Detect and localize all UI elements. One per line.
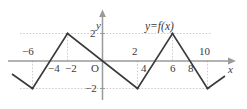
x-axis <box>8 58 236 65</box>
origin-label: O <box>91 63 99 74</box>
x-tick-label-neg6: −6 <box>22 46 34 57</box>
y-tick-label-2: 2 <box>90 28 96 39</box>
x-tick-label-10: 10 <box>199 46 210 57</box>
x-tick-label-neg4: −4 <box>48 63 60 74</box>
x-tick-label-8: 8 <box>188 63 194 74</box>
y-axis-label: y <box>96 20 101 31</box>
function-annotation-label: y=f(x) <box>145 21 174 33</box>
function-graph-figure: y x O 2 −2 −6 2 10 −4 −2 4 6 8 y=f(x) <box>0 0 247 109</box>
x-tick-label-2: 2 <box>132 46 138 57</box>
x-axis-label: x <box>228 64 233 75</box>
x-tick-label-neg2: −2 <box>65 63 77 74</box>
y-tick-label-neg2: −2 <box>85 83 97 94</box>
x-tick-label-4: 4 <box>141 63 147 74</box>
x-tick-label-6: 6 <box>170 63 176 74</box>
